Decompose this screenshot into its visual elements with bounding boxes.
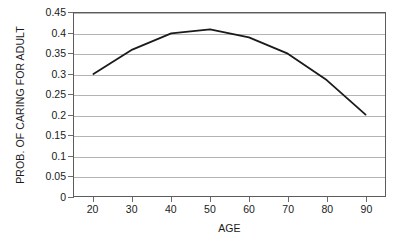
x-axis-tick [288, 197, 289, 202]
x-axis-tick [93, 197, 94, 202]
y-axis-tick-label: 0.35 [46, 48, 66, 59]
y-axis-tick-label: 0.1 [51, 151, 66, 162]
y-axis-tick-label: 0.3 [51, 68, 66, 79]
x-axis-tick-label: 80 [321, 203, 333, 216]
x-axis-tick [132, 197, 133, 202]
x-axis-tick [249, 197, 250, 202]
x-axis-tick-label: 50 [204, 203, 216, 216]
y-axis-tick-labels: 00.050.10.150.20.250.30.350.40.45 [28, 12, 66, 197]
y-axis-tick-label: 0 [60, 192, 66, 203]
y-axis-tick-label: 0.25 [46, 89, 66, 100]
y-axis-tick-label: 0.4 [51, 27, 66, 38]
y-axis-tick-label: 0.05 [46, 171, 66, 182]
plot-area [73, 12, 386, 197]
x-axis-tick-labels: 2030405060708090 [73, 203, 386, 219]
y-axis-title: PROB. OF CARING FOR ADULT [11, 5, 29, 205]
chart-container: PROB. OF CARING FOR ADULT 00.050.10.150.… [0, 0, 405, 248]
y-axis-tick-label: 0.2 [51, 110, 66, 121]
y-axis-tick-label: 0.15 [46, 130, 66, 141]
x-axis-tick [210, 197, 211, 202]
x-axis-tick-label: 20 [87, 203, 99, 216]
x-axis-title: AGE [73, 222, 386, 234]
x-axis-tick-label: 40 [165, 203, 177, 216]
x-axis-tick [366, 197, 367, 202]
y-axis-tick-label: 0.45 [46, 7, 66, 18]
x-axis-tick-label: 90 [361, 203, 373, 216]
x-axis-tick-label: 60 [243, 203, 255, 216]
x-axis-tick-marks [73, 197, 386, 202]
x-axis-tick [327, 197, 328, 202]
data-series-line [74, 13, 385, 196]
x-axis-tick-label: 30 [126, 203, 138, 216]
x-axis-tick-label: 70 [282, 203, 294, 216]
x-axis-tick [171, 197, 172, 202]
